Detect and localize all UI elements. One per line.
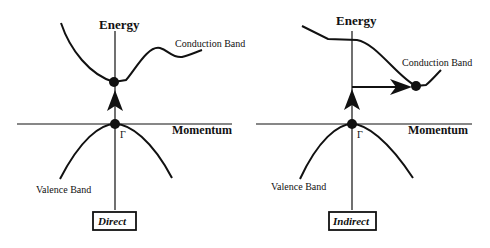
conduction-band-label: Conduction Band: [402, 57, 472, 68]
gamma-label: Γ: [357, 129, 363, 140]
vb-maximum-dot: [110, 119, 120, 129]
momentum-label: Momentum: [408, 123, 468, 137]
caption-direct: Direct: [97, 215, 127, 227]
caption-indirect: Indirect: [332, 215, 370, 227]
valence-band-label: Valence Band: [36, 184, 91, 195]
indirect-panel: Energy Conduction Band Momentum Γ Valenc…: [256, 13, 472, 230]
direct-panel: Energy Conduction Band Momentum Γ Valenc…: [17, 17, 245, 230]
conduction-band-label: Conduction Band: [175, 38, 245, 49]
band-gap-diagram: Energy Conduction Band Momentum Γ Valenc…: [0, 0, 490, 248]
conduction-band-curve: [302, 26, 441, 86]
valence-band-label: Valence Band: [271, 181, 326, 192]
valence-band-curve: [60, 124, 172, 179]
energy-label: Energy: [99, 17, 140, 32]
gamma-label: Γ: [120, 129, 126, 140]
vb-maximum-dot: [347, 119, 357, 129]
energy-label: Energy: [336, 13, 377, 28]
momentum-label: Momentum: [172, 123, 232, 137]
cb-minimum-dot: [411, 81, 421, 91]
cb-minimum-dot: [109, 77, 119, 87]
